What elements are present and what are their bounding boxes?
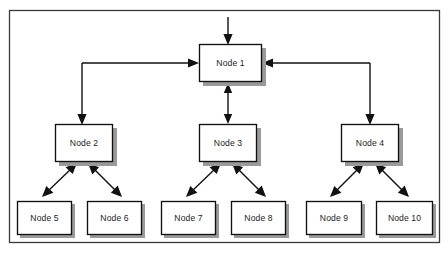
node-node9[interactable]: Node 9: [307, 202, 366, 239]
node-node5[interactable]: Node 5: [18, 202, 76, 239]
node-node6[interactable]: Node 6: [88, 202, 146, 239]
node-label: Node 3: [214, 138, 242, 148]
node-label: Node 2: [70, 138, 98, 148]
node2-node1-connector: [77, 58, 199, 125]
node-node1[interactable]: Node 1: [200, 45, 267, 87]
node-node2[interactable]: Node 2: [56, 125, 118, 167]
node3-node7-connector: [186, 163, 221, 197]
node-node3[interactable]: Node 3: [200, 125, 262, 167]
node4-node9-connector: [330, 163, 364, 197]
node-label: Node 5: [30, 213, 58, 223]
node-label: Node 9: [320, 213, 348, 223]
node-label: Node 1: [216, 58, 244, 68]
node4-node10-connector: [375, 163, 409, 197]
node-label: Node 4: [356, 138, 384, 148]
node-hierarchy-diagram: Node 1 Node 2 Node 3 Node 4 Node 5: [0, 0, 448, 257]
node-label: Node 7: [174, 213, 202, 223]
node-node10[interactable]: Node 10: [377, 202, 437, 239]
node-node7[interactable]: Node 7: [162, 202, 220, 239]
node3-node8-connector: [232, 163, 266, 197]
node-node8[interactable]: Node 8: [232, 202, 290, 239]
diagram-canvas: Node 1 Node 2 Node 3 Node 4 Node 5: [0, 0, 448, 257]
node1-node3-connector: [224, 83, 232, 124]
node-label: Node 6: [100, 213, 128, 223]
node2-node6-connector: [88, 163, 122, 197]
node-label: Node 8: [244, 213, 272, 223]
node-layer: Node 1 Node 2 Node 3 Node 4 Node 5: [18, 45, 437, 239]
node-node4[interactable]: Node 4: [342, 125, 404, 167]
node2-node5-connector: [42, 163, 77, 197]
node-label: Node 10: [388, 213, 421, 223]
node4-node1-connector: [262, 58, 375, 125]
entry-arrow: [223, 17, 232, 45]
